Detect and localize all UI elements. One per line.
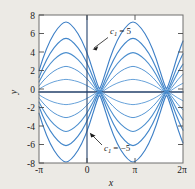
y-tick-label-6: 6 bbox=[30, 29, 35, 39]
x-tick-label-0: 0 bbox=[85, 165, 90, 175]
y-axis-title: y bbox=[8, 89, 19, 95]
y-tick-label-neg8: -8 bbox=[27, 159, 35, 169]
y-tick-label-8: 8 bbox=[30, 11, 35, 21]
annotation-lower-label: c1= −5 bbox=[104, 143, 131, 154]
y-tick-label-4: 4 bbox=[30, 48, 35, 58]
annotation-upper-label: c1= 5 bbox=[110, 26, 132, 37]
figure-container: 8 6 4 2 0 -2 -4 -6 -8 -π 0 π 2π y x c1= … bbox=[0, 0, 195, 189]
plot-area-background bbox=[39, 15, 183, 163]
x-tick-label-neg-pi: -π bbox=[35, 165, 43, 175]
x-tick-label-pi: π bbox=[133, 165, 138, 175]
y-tick-label-neg6: -6 bbox=[27, 140, 35, 150]
y-tick-label-neg4: -4 bbox=[27, 122, 35, 132]
plot-svg: 8 6 4 2 0 -2 -4 -6 -8 -π 0 π 2π y x c1= … bbox=[0, 0, 195, 189]
x-axis-title: x bbox=[108, 177, 114, 188]
x-tick-label-2pi: 2π bbox=[177, 165, 187, 175]
y-tick-label-2: 2 bbox=[30, 66, 35, 76]
y-tick-label-0: 0 bbox=[30, 85, 35, 95]
y-tick-label-neg2: -2 bbox=[27, 103, 35, 113]
